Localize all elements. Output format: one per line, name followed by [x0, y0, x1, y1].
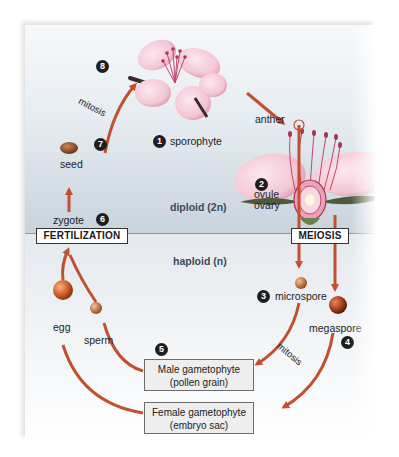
stage-6-badge: 6	[96, 213, 109, 226]
ovary-label: ovary	[254, 199, 280, 211]
microspore-label: microspore	[275, 290, 327, 302]
male-gametophyte-box: Male gametophyte (pollen grain)	[144, 359, 254, 391]
egg-cell	[53, 280, 73, 300]
haploid-label: haploid (n)	[173, 255, 227, 267]
sperm-cell	[90, 302, 102, 314]
male-gametophyte-title: Male gametophyte	[145, 363, 253, 376]
stage-8-badge: 8	[96, 60, 109, 73]
meiosis-box: MEIOSIS	[291, 228, 349, 244]
anther-label: anther	[255, 113, 285, 125]
zygote-label: zygote	[53, 214, 84, 226]
seed-label: seed	[60, 158, 83, 170]
sporophyte-label: sporophyte	[170, 135, 222, 147]
sporophyte-flower	[130, 34, 227, 120]
female-gametophyte-title: Female gametophyte	[145, 406, 253, 419]
sperm-label: sperm	[84, 334, 113, 346]
microspore-cell	[295, 277, 307, 289]
life-cycle-panel: diploid (2n) haploid (n) FERTILIZATION M…	[25, 25, 375, 440]
female-gametophyte-subtitle: (embryo sac)	[145, 419, 253, 432]
male-gametophyte-subtitle: (pollen grain)	[145, 376, 253, 389]
fertilization-box: FERTILIZATION	[36, 228, 128, 244]
right-fade	[351, 25, 375, 440]
egg-label: egg	[53, 321, 71, 333]
stage-1-badge: 1	[153, 135, 166, 148]
stage-3-badge: 3	[257, 290, 270, 303]
seed-shape	[60, 142, 78, 154]
megaspore-cell	[329, 296, 347, 314]
stage-7-badge: 7	[94, 138, 107, 151]
diploid-label: diploid (2n)	[170, 201, 227, 213]
female-gametophyte-box: Female gametophyte (embryo sac)	[144, 402, 254, 434]
stage-5-badge: 5	[155, 343, 168, 356]
